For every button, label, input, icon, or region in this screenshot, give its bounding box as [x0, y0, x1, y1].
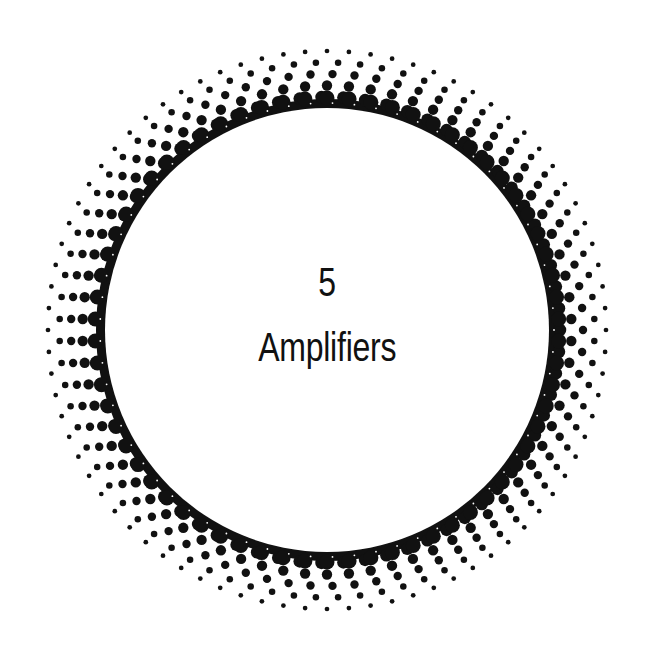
chapter-number: 5 — [72, 258, 583, 306]
chapter-title: Amplifiers — [65, 322, 589, 372]
